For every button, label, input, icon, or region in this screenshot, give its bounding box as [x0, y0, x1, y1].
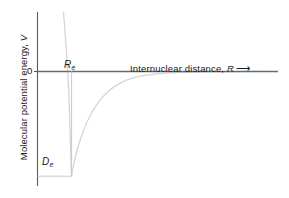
- y-axis-label-container: Molecular potential energy, V: [0, 0, 30, 198]
- x-axis-label: Internuclear distance, R⟶: [130, 64, 250, 74]
- re-annotation-label: Re: [64, 60, 75, 70]
- de-subscript: e: [50, 161, 54, 168]
- molecular-potential-energy-figure: Molecular potential energy, V 0 Re De In…: [0, 0, 289, 198]
- de-symbol: D: [42, 156, 49, 167]
- y-axis-label: Molecular potential energy, V: [18, 23, 29, 173]
- x-axis-label-symbol: R: [227, 63, 234, 74]
- y-axis-zero-tick-label: 0: [27, 66, 32, 76]
- re-symbol: R: [64, 59, 71, 70]
- x-axis-label-text: Internuclear distance,: [130, 63, 227, 74]
- re-subscript: e: [72, 64, 76, 71]
- y-axis-label-symbol: V: [18, 35, 29, 41]
- potential-energy-plot: [0, 0, 289, 198]
- y-axis-label-text: Molecular potential energy,: [18, 41, 29, 160]
- de-annotation-label: De: [42, 157, 53, 167]
- morse-potential-curve: [64, 12, 263, 176]
- x-axis-arrow-icon: ⟶: [234, 63, 250, 74]
